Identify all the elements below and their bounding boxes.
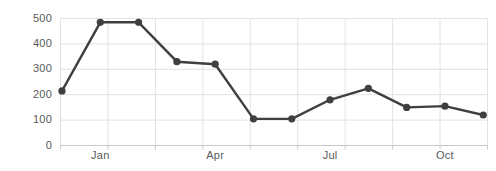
- y-axis-tick: 0: [22, 140, 52, 151]
- data-point-marker: [58, 87, 65, 94]
- data-point-marker: [250, 115, 257, 122]
- y-axis-tick-label: 100: [22, 114, 52, 125]
- x-axis-tick-label: Jul: [300, 150, 360, 161]
- data-point-marker: [480, 111, 487, 118]
- data-point-marker: [326, 96, 333, 103]
- y-axis-tick: 500: [22, 13, 52, 24]
- y-axis-tick-label: 0: [22, 140, 52, 151]
- data-point-marker: [212, 61, 219, 68]
- y-axis-tick-label: 500: [22, 13, 52, 24]
- y-axis-tick: 100: [22, 114, 52, 125]
- chart-plot-area: [0, 0, 496, 171]
- y-axis-tick-label: 200: [22, 89, 52, 100]
- data-series-line: [62, 22, 483, 119]
- y-axis-tick: 200: [22, 89, 52, 100]
- data-point-marker: [288, 115, 295, 122]
- data-point-marker: [403, 104, 410, 111]
- axis-tick-marks: [61, 146, 488, 150]
- data-point-marker: [441, 103, 448, 110]
- y-axis-tick: 300: [22, 63, 52, 74]
- y-axis-tick-label: 300: [22, 63, 52, 74]
- data-point-marker: [173, 58, 180, 65]
- horizontal-gridlines: [61, 19, 488, 146]
- data-point-marker: [135, 19, 142, 26]
- data-point-marker: [97, 19, 104, 26]
- vertical-gridlines: [61, 19, 488, 146]
- y-axis-tick: 400: [22, 38, 52, 49]
- x-axis-tick-label: Jan: [70, 150, 130, 161]
- x-axis-tick-label: Apr: [185, 150, 245, 161]
- line-chart: 0100200300400500 JanAprJulOct: [0, 0, 496, 171]
- data-point-marker: [365, 85, 372, 92]
- x-axis-tick-label: Oct: [415, 150, 475, 161]
- y-axis-tick-label: 400: [22, 38, 52, 49]
